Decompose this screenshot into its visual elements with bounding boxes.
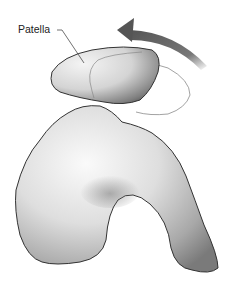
patella-label: Patella bbox=[18, 23, 50, 35]
knee-diagram bbox=[0, 0, 237, 282]
patella-bone bbox=[51, 47, 159, 104]
femur-bone bbox=[16, 106, 219, 272]
